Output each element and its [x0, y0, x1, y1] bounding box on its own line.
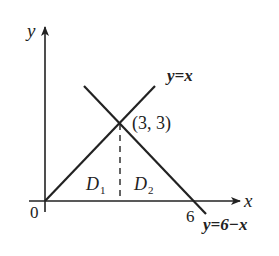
svg-text:D: D	[133, 174, 147, 194]
x-tick-6-label: 6	[186, 207, 195, 226]
coordinate-diagram: y x 0 6 y=x y=6−x (3, 3) D 1 D 2	[0, 0, 279, 256]
region-d2-label: D 2	[133, 174, 154, 196]
svg-text:D: D	[85, 174, 99, 194]
x-axis-label: x	[243, 190, 253, 211]
intersection-label: (3, 3)	[132, 113, 171, 134]
origin-label: 0	[30, 203, 39, 222]
svg-text:2: 2	[148, 184, 154, 196]
y-axis-label: y	[25, 20, 36, 41]
label-y-equals-6-minus-x: y=6−x	[201, 215, 248, 234]
label-y-equals-x: y=x	[165, 66, 193, 85]
region-d1-label: D 1	[85, 174, 106, 196]
svg-text:1: 1	[100, 184, 106, 196]
